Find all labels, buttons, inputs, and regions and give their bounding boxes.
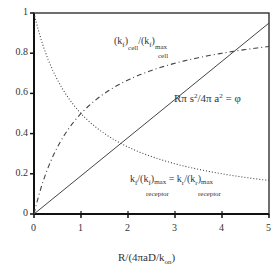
annotation-sub: max <box>154 178 166 186</box>
x-tick-label: 0 <box>31 222 36 233</box>
annotation-sup: 2 <box>194 92 198 100</box>
annotation-receptor-sub2: receptor <box>198 190 221 198</box>
annotation-cell-sub2: cell <box>158 52 168 60</box>
annotation-text: /(k <box>138 35 149 46</box>
y-tick-label: 0 <box>23 207 28 218</box>
annotation-sup: 2 <box>219 92 223 100</box>
annotation-sub: max <box>155 43 167 51</box>
x-tick-label: 2 <box>125 222 130 233</box>
annotation-receptor: kf/(kf)max = kr/(kr)max <box>130 173 213 184</box>
x-tick-label: 4 <box>219 222 224 233</box>
annotation-receptor-sub: receptor <box>146 190 169 198</box>
annotation-sub: f <box>148 179 150 187</box>
x-axis-label-text: R/(4πaD/k <box>118 251 165 263</box>
y-tick-label: 0.8 <box>16 46 29 57</box>
annotation-text: = k <box>166 173 182 184</box>
y-tick-label: 1 <box>23 6 28 17</box>
annotation-sub: receptor <box>198 190 221 198</box>
annotation-cell-ratio: (kf)cell/(kf)max <box>114 35 167 46</box>
annotation-sub: r <box>195 179 197 187</box>
annotation-sub: r <box>182 179 184 187</box>
annotation-text: Rπ s <box>174 92 194 104</box>
x-axis-label-text: ) <box>172 251 176 263</box>
annotation-sub: receptor <box>146 190 169 198</box>
series-line-solid <box>34 23 269 214</box>
annotation-text: = φ <box>223 92 241 104</box>
annotation-sub: cell <box>128 44 138 52</box>
annotation-sub: f <box>149 41 151 49</box>
annotation-sub: cell <box>158 52 168 60</box>
annotation-text: /(k <box>184 173 195 184</box>
y-tick-label: 0.6 <box>16 86 29 97</box>
x-axis-label: R/(4πaD/kon) <box>118 251 175 263</box>
annotation-sub: max <box>201 178 213 186</box>
x-tick-label: 3 <box>172 222 177 233</box>
annotation-text: /4π a <box>197 92 219 104</box>
x-tick-label: 5 <box>266 222 271 233</box>
annotation-sub: f <box>122 41 124 49</box>
y-tick-label: 0.4 <box>16 127 29 138</box>
annotation-phi: Rπ s2/4π a2 = φ <box>174 92 241 104</box>
series-line-dash-dot <box>34 47 269 215</box>
annotation-sub: f <box>135 179 137 187</box>
x-axis-label-sub: on <box>165 258 172 266</box>
annotation-text: /(k <box>137 173 148 184</box>
x-tick-label: 1 <box>78 222 83 233</box>
y-tick-label: 0.2 <box>16 167 29 178</box>
